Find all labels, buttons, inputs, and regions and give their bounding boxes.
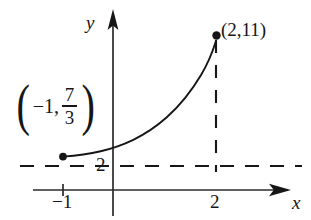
x-tick-label-2: 2 <box>210 192 220 211</box>
x-tick-label-neg1: −1 <box>52 192 72 211</box>
close-paren-glyph: ) <box>82 84 95 128</box>
point-annotation-left: ( −1, 7 3 ) <box>14 84 98 128</box>
open-paren-glyph: ( <box>17 84 30 128</box>
point-marker-right <box>212 31 220 39</box>
point-annotation-right: (2,11) <box>221 20 266 39</box>
exponential-function-graph: y x −1 2 2 ( −1, 7 3 ) (2,11) <box>0 0 311 220</box>
y-axis-label: y <box>86 13 94 32</box>
y-tick-label-2: 2 <box>96 155 106 174</box>
x-axis-label: x <box>292 193 300 212</box>
point-annotation-left-x: −1, <box>33 96 60 116</box>
fraction-denominator: 3 <box>63 107 77 127</box>
fraction-seven-thirds: 7 3 <box>62 85 77 127</box>
fraction-numerator: 7 <box>63 85 77 105</box>
point-marker-left <box>59 153 67 161</box>
